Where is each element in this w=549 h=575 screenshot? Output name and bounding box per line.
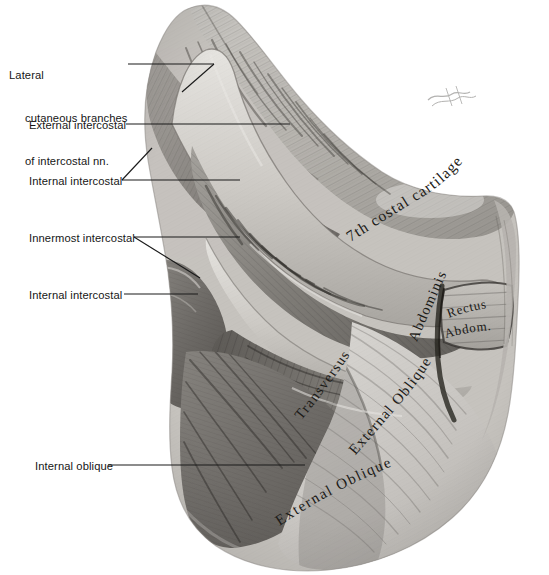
figure-canvas: 7th costal cartilage Transversus Abdomin… bbox=[0, 0, 549, 575]
label-external-intercostal: External intercostal bbox=[29, 118, 126, 132]
label-innermost-intercostal: Innermost intercostal bbox=[29, 231, 135, 245]
label-lateral-line3: of intercostal nn. bbox=[9, 154, 128, 168]
label-internal-intercostal-lower: Internal intercostal bbox=[29, 288, 122, 302]
label-internal-oblique: Internal oblique bbox=[35, 459, 113, 473]
artist-signature bbox=[428, 86, 476, 106]
label-internal-intercostal-upper: Internal intercostal bbox=[29, 174, 122, 188]
label-lateral-line1: Lateral bbox=[9, 68, 128, 82]
